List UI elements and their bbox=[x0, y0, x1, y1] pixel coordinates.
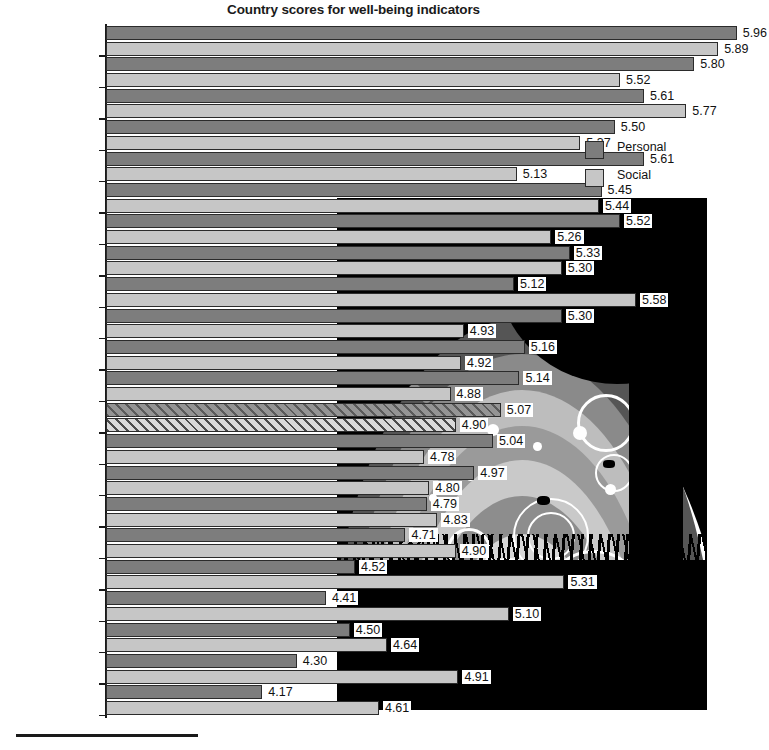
bar-social-netherlands[interactable] bbox=[106, 261, 562, 275]
value-label-personal-germany: 5.14 bbox=[523, 371, 551, 385]
bar-social-slovakia[interactable] bbox=[106, 638, 387, 652]
value-label-social-bulgaria: 4.91 bbox=[462, 670, 490, 684]
bar-social-portugal[interactable] bbox=[106, 575, 564, 589]
axis-tick bbox=[99, 244, 106, 246]
bar-social-belgium[interactable] bbox=[106, 356, 461, 370]
axis-tick bbox=[99, 558, 106, 560]
bar-row: Portugal4.525.31 bbox=[106, 560, 707, 591]
bar-personal-denmark[interactable] bbox=[106, 26, 737, 40]
value-label-social-denmark: 5.89 bbox=[722, 42, 750, 56]
bar-personal-portugal[interactable] bbox=[106, 560, 355, 574]
value-label-social-slovenia: 4.78 bbox=[428, 450, 456, 464]
bar-social-slovenia[interactable] bbox=[106, 450, 424, 464]
axis-tick bbox=[99, 212, 106, 214]
bar-social-spain[interactable] bbox=[106, 293, 636, 307]
legend-swatch-personal-icon bbox=[585, 141, 604, 159]
bar-row: Estonia4.714.90 bbox=[106, 528, 707, 559]
bar-social-norway[interactable] bbox=[106, 104, 686, 118]
bar-social-germany[interactable] bbox=[106, 387, 451, 401]
axis-tick bbox=[99, 526, 106, 528]
axis-tick bbox=[99, 432, 106, 434]
bar-row: Denmark5.965.89 bbox=[106, 26, 707, 57]
value-label-personal-bulgaria: 4.30 bbox=[301, 654, 329, 668]
bar-row: Finland5.525.26 bbox=[106, 214, 707, 245]
bar-social-sweden[interactable] bbox=[106, 199, 599, 213]
bar-social-france[interactable] bbox=[106, 481, 429, 495]
bar-personal-netherlands[interactable] bbox=[106, 246, 570, 260]
bar-personal-ukraine[interactable] bbox=[106, 685, 262, 699]
chart-title: Country scores for well-being indicators bbox=[0, 2, 707, 17]
legend-swatch-social-icon bbox=[585, 169, 604, 187]
legend-item-personal[interactable]: Personal bbox=[585, 138, 705, 166]
bar-personal-slovakia[interactable] bbox=[106, 623, 350, 637]
bar-personal-germany[interactable] bbox=[106, 371, 519, 385]
bar-personal-belgium[interactable] bbox=[106, 340, 525, 354]
bar-row: Belgium5.164.92 bbox=[106, 340, 707, 371]
bar-row: Spain5.125.58 bbox=[106, 277, 707, 308]
bar-personal-finland[interactable] bbox=[106, 214, 620, 228]
bar-personal-cyprus[interactable] bbox=[106, 309, 562, 323]
bar-social-austria[interactable] bbox=[106, 167, 517, 181]
bar-personal-ireland[interactable] bbox=[106, 120, 615, 134]
bar-social-estonia[interactable] bbox=[106, 544, 456, 558]
bar-personal-poland[interactable] bbox=[106, 497, 427, 511]
value-label-social-sweden: 5.44 bbox=[603, 199, 631, 213]
bar-social-hungary[interactable] bbox=[106, 607, 509, 621]
bar-personal-sweden[interactable] bbox=[106, 183, 602, 197]
value-label-social-poland: 4.83 bbox=[441, 513, 469, 527]
bar-personal-norway[interactable] bbox=[106, 89, 644, 103]
legend-label-social: Social bbox=[617, 168, 651, 182]
value-label-social-ukraine: 4.61 bbox=[383, 701, 411, 715]
bar-social-bulgaria[interactable] bbox=[106, 670, 458, 684]
axis-tick bbox=[99, 338, 106, 340]
axis-tick bbox=[99, 87, 106, 89]
bar-personal-uk[interactable] bbox=[106, 403, 501, 417]
value-label-social-finland: 5.26 bbox=[555, 230, 583, 244]
legend: Personal Social bbox=[585, 138, 705, 194]
value-label-personal-portugal: 4.52 bbox=[359, 560, 387, 574]
value-label-personal-finland: 5.52 bbox=[624, 214, 652, 228]
bar-personal-hungary[interactable] bbox=[106, 591, 326, 605]
bar-row: Bulgaria4.304.91 bbox=[106, 654, 707, 685]
bar-row: Norway5.615.77 bbox=[106, 89, 707, 120]
bar-social-finland[interactable] bbox=[106, 230, 551, 244]
value-label-social-norway: 5.77 bbox=[690, 104, 718, 118]
value-label-social-belgium: 4.92 bbox=[465, 356, 493, 370]
bar-personal-switzerland[interactable] bbox=[106, 57, 694, 71]
bar-row: Slovenia5.044.78 bbox=[106, 434, 707, 465]
value-label-personal-ukraine: 4.17 bbox=[266, 685, 294, 699]
bar-personal-austria[interactable] bbox=[106, 152, 644, 166]
bar-social-denmark[interactable] bbox=[106, 42, 718, 56]
value-label-social-spain: 5.58 bbox=[640, 293, 668, 307]
value-label-social-uk: 4.90 bbox=[460, 418, 488, 432]
bar-row: Hungary4.415.10 bbox=[106, 591, 707, 622]
bar-social-poland[interactable] bbox=[106, 513, 437, 527]
value-label-personal-poland: 4.79 bbox=[431, 497, 459, 511]
axis-tick bbox=[99, 275, 106, 277]
bar-personal-spain[interactable] bbox=[106, 277, 514, 291]
value-label-personal-slovakia: 4.50 bbox=[354, 623, 382, 637]
bar-social-ukraine[interactable] bbox=[106, 701, 379, 715]
bar-social-cyprus[interactable] bbox=[106, 324, 464, 338]
plot-area: Denmark5.965.89Switzerland5.805.52Norway… bbox=[106, 24, 707, 718]
bar-row: Netherlands5.335.30 bbox=[106, 246, 707, 277]
value-label-personal-france: 4.97 bbox=[478, 466, 506, 480]
bar-personal-france[interactable] bbox=[106, 466, 474, 480]
bar-social-ireland[interactable] bbox=[106, 136, 580, 150]
axis-tick bbox=[99, 589, 106, 591]
value-label-social-germany: 4.88 bbox=[455, 387, 483, 401]
value-label-personal-switzerland: 5.80 bbox=[698, 57, 726, 71]
bar-personal-slovenia[interactable] bbox=[106, 434, 493, 448]
bar-personal-estonia[interactable] bbox=[106, 528, 405, 542]
bar-personal-bulgaria[interactable] bbox=[106, 654, 297, 668]
value-label-social-cyprus: 4.93 bbox=[468, 324, 496, 338]
bar-row: UK5.074.90 bbox=[106, 403, 707, 434]
bar-social-uk[interactable] bbox=[106, 418, 456, 432]
value-label-personal-ireland: 5.50 bbox=[619, 120, 647, 134]
value-label-social-netherlands: 5.30 bbox=[566, 261, 594, 275]
bar-social-switzerland[interactable] bbox=[106, 73, 620, 87]
bar-row: Ukraine4.174.61 bbox=[106, 685, 707, 716]
value-label-personal-slovenia: 5.04 bbox=[497, 434, 525, 448]
legend-item-social[interactable]: Social bbox=[585, 166, 705, 194]
